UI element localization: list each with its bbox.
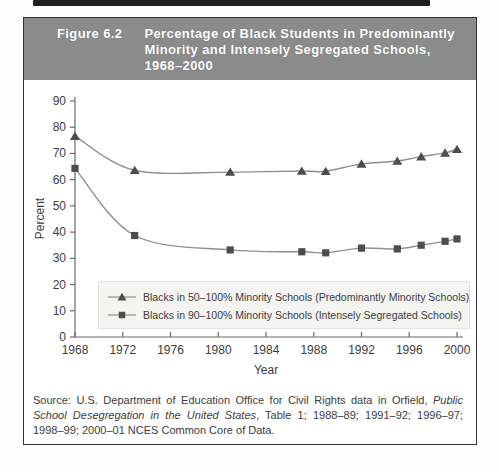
triangle-marker bbox=[452, 145, 462, 153]
square-marker bbox=[227, 246, 234, 253]
y-tick-label: 10 bbox=[53, 304, 67, 318]
x-tick-label: 2000 bbox=[444, 343, 471, 357]
legend-item: Blacks in 90–100% Minority Schools (Inte… bbox=[107, 306, 463, 324]
square-marker bbox=[71, 165, 78, 172]
y-tick-label: 20 bbox=[53, 278, 67, 292]
square-marker bbox=[441, 238, 448, 245]
square-marker bbox=[358, 245, 365, 252]
y-tick-label: 0 bbox=[59, 330, 66, 344]
source-text-prefix: Source: U.S. Department of Education Off… bbox=[33, 394, 433, 406]
x-tick-label: 1980 bbox=[205, 343, 232, 357]
square-marker-icon bbox=[107, 310, 137, 320]
legend-label: Blacks in 90–100% Minority Schools (Inte… bbox=[143, 309, 462, 321]
square-marker bbox=[394, 245, 401, 252]
y-tick-label: 40 bbox=[53, 225, 67, 239]
x-tick-label: 1984 bbox=[253, 343, 280, 357]
triangle-marker bbox=[70, 132, 80, 140]
y-tick-label: 90 bbox=[53, 94, 67, 108]
page-top-rule bbox=[33, 0, 430, 6]
y-tick-label: 30 bbox=[53, 251, 67, 265]
square-marker bbox=[322, 249, 329, 256]
source-note: Source: U.S. Department of Education Off… bbox=[24, 380, 476, 438]
square-marker bbox=[418, 242, 425, 249]
triangle-marker-icon bbox=[107, 292, 137, 302]
figure-title: Percentage of Black Students in Predomin… bbox=[144, 26, 455, 74]
square-marker bbox=[453, 235, 460, 242]
y-axis-title: Percent bbox=[33, 189, 48, 249]
x-tick-label: 1996 bbox=[396, 343, 423, 357]
x-tick-label: 1968 bbox=[62, 343, 89, 357]
chart-area: 0102030405060708090196819721976198019841… bbox=[24, 80, 476, 380]
figure-header: Figure 6.2 Percentage of Black Students … bbox=[24, 18, 476, 80]
x-axis-title: Year bbox=[204, 363, 328, 377]
series-line bbox=[75, 136, 457, 173]
series-line bbox=[75, 168, 457, 253]
legend: Blacks in 50–100% Minority Schools (Pred… bbox=[98, 281, 470, 329]
legend-item: Blacks in 50–100% Minority Schools (Pred… bbox=[107, 288, 463, 306]
square-marker bbox=[298, 248, 305, 255]
square-marker bbox=[119, 312, 125, 318]
figure-label: Figure 6.2 bbox=[57, 26, 122, 42]
figure-box: Figure 6.2 Percentage of Black Students … bbox=[23, 17, 477, 445]
square-marker bbox=[131, 232, 138, 239]
legend-label: Blacks in 50–100% Minority Schools (Pred… bbox=[143, 291, 469, 303]
y-tick-label: 70 bbox=[53, 146, 67, 160]
x-tick-label: 1972 bbox=[109, 343, 136, 357]
x-tick-label: 1988 bbox=[300, 343, 327, 357]
x-tick-label: 1992 bbox=[348, 343, 375, 357]
x-tick-label: 1976 bbox=[157, 343, 184, 357]
y-tick-label: 50 bbox=[53, 199, 67, 213]
line-chart: 0102030405060708090196819721976198019841… bbox=[24, 80, 476, 380]
y-tick-label: 80 bbox=[53, 120, 67, 134]
y-tick-label: 60 bbox=[53, 173, 67, 187]
page: Figure 6.2 Percentage of Black Students … bbox=[0, 0, 499, 472]
